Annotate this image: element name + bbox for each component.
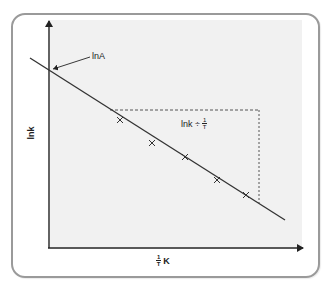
slope-label-prefix: lnk ÷ xyxy=(181,119,200,129)
data-point-marker xyxy=(117,117,123,123)
data-point-marker xyxy=(182,154,188,160)
data-point-marker xyxy=(149,140,155,146)
x-axis-label: 1 T K xyxy=(156,254,170,267)
intercept-label: lnA xyxy=(92,51,105,61)
data-point-marker xyxy=(243,192,249,198)
data-point-marker xyxy=(214,177,220,183)
slope-label: lnk ÷ 1 T xyxy=(181,117,207,130)
y-axis-label: lnk xyxy=(26,126,36,139)
x-axis-unit: K xyxy=(163,256,170,266)
intercept-arrow xyxy=(53,57,90,69)
arrhenius-plot xyxy=(0,0,328,285)
x-axis-fraction: 1 T xyxy=(156,254,161,267)
slope-fraction: 1 T xyxy=(202,117,207,130)
